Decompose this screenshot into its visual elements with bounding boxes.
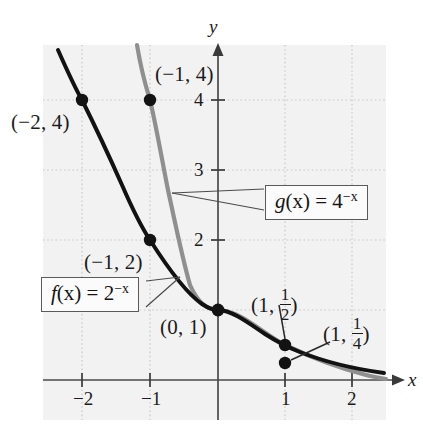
paren-close-quarter: ) [363, 322, 370, 346]
xtick-label-neg2: −2 [73, 388, 93, 410]
callout-g-expression: (x) = 4 [286, 189, 343, 213]
callout-box-f: f(x) = 2−x [41, 277, 139, 312]
point-label-1-one-quarter: (1, 14) [323, 315, 370, 352]
x-axis-label: x [408, 369, 416, 391]
point-label-1-one-half: (1, 12) [251, 286, 298, 323]
callout-f-exponent: −x [114, 281, 129, 296]
point-label-neg2-4: (−2, 4) [11, 110, 70, 135]
callout-f-expression: (x) = 2 [57, 281, 114, 305]
fraction-numerator-1: 1 [280, 286, 291, 304]
callout-g-function-name: g [275, 189, 286, 213]
paren-close-half: ) [291, 293, 298, 317]
figure-exponential-decay-graph: y x −2 −1 1 2 4 3 2 (−2, 4) (−1, 4) (−1,… [0, 0, 423, 431]
callout-box-g: g(x) = 4−x [265, 185, 368, 220]
paren-open-half: (1, [251, 293, 280, 317]
ytick-label-4: 4 [194, 89, 204, 111]
fraction-denominator-4: 4 [352, 335, 363, 353]
y-axis-arrowhead [213, 43, 224, 56]
point-g-neg1-4 [144, 94, 156, 106]
xtick-label-1: 1 [281, 388, 291, 410]
leader-f-lower [146, 277, 180, 307]
point-label-neg1-2: (−1, 2) [84, 250, 143, 275]
fraction-numerator-1: 1 [352, 315, 363, 333]
y-axis-label: y [209, 16, 217, 38]
point-f-1-half [279, 339, 291, 351]
callout-g-exponent: −x [343, 189, 358, 204]
fraction-one-half: 12 [280, 286, 291, 323]
point-label-0-1: (0, 1) [160, 315, 207, 340]
ytick-label-2: 2 [194, 229, 204, 251]
axis-ticks [82, 100, 352, 387]
point-f-neg1-2 [144, 234, 156, 246]
ytick-label-3: 3 [194, 159, 204, 181]
xtick-label-neg1: −1 [141, 388, 161, 410]
xtick-label-2: 2 [347, 388, 357, 410]
fraction-denominator-2: 2 [280, 306, 291, 324]
callout-leaders-f [146, 277, 180, 307]
point-f-neg2-4 [76, 94, 88, 106]
paren-open-quarter: (1, [323, 322, 352, 346]
fraction-one-quarter: 14 [352, 315, 363, 352]
x-axis-arrowhead [392, 375, 405, 386]
point-label-neg1-4: (−1, 4) [155, 62, 214, 87]
point-g-1-quarter [279, 357, 291, 369]
point-shared-0-1 [212, 304, 225, 317]
